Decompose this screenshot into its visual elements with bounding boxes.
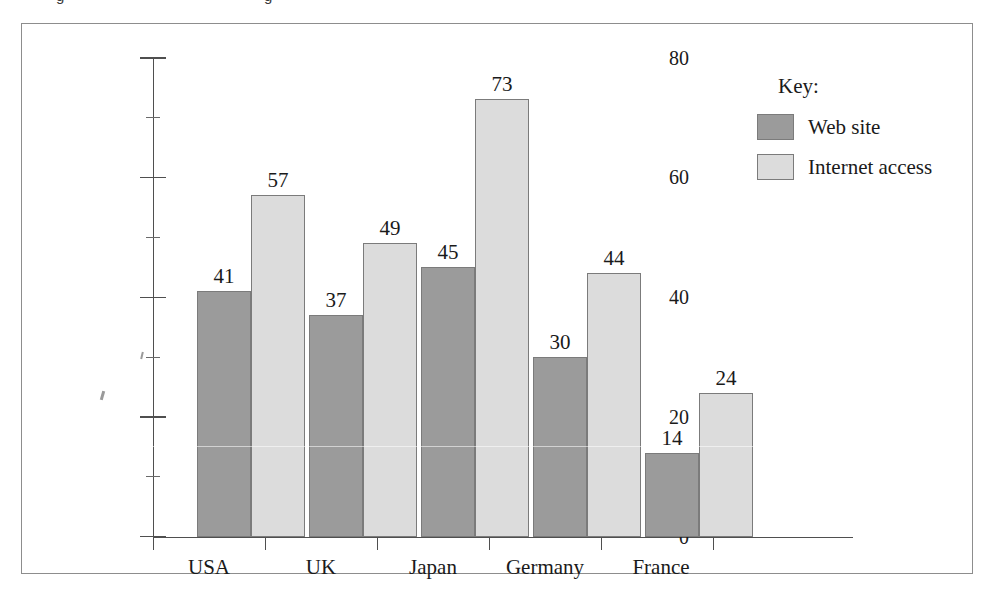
bar-value-uk-web-site: 37 [309,288,363,313]
bar-value-japan-internet-access: 73 [475,72,529,97]
legend-label-web-site: Web site [808,115,880,140]
legend-label-internet-access: Internet access [808,155,932,180]
legend-swatch-web-site [757,114,794,140]
x-category-label-usa: USA [169,555,249,580]
caption-fragment-2: g [264,0,272,4]
x-tick-1 [265,537,266,550]
y-tick-label-80: 80 [629,48,689,68]
bar-japan-web-site [421,267,475,537]
clipped-caption-strip: g g [0,0,989,14]
chart-legend: Key: Web site Internet access [757,74,967,194]
legend-item-internet-access: Internet access [757,154,967,180]
x-category-label-germany: Germany [497,555,593,580]
y-tick-label-60: 60 [629,167,689,187]
bar-value-japan-web-site: 45 [421,240,475,265]
scan-speck-2 [140,352,144,359]
bar-usa-internet-access [251,195,305,537]
y-tick-minor-30 [146,357,160,358]
y-tick-minor-70 [146,117,160,118]
bar-uk-web-site [309,315,363,537]
x-tick-3 [489,537,490,550]
bar-value-usa-web-site: 41 [197,264,251,289]
x-tick-5 [713,537,714,550]
y-tick-major-20 [140,416,166,417]
y-axis-line [153,58,154,538]
y-tick-major-60 [140,177,166,178]
x-axis-line [153,537,853,538]
legend-swatch-internet-access [757,154,794,180]
bar-usa-web-site [197,291,251,537]
bar-germany-internet-access [587,273,641,537]
bar-value-germany-internet-access: 44 [587,246,641,271]
plot-area: 0 20 40 60 80 41 57 37 49 45 73 30 44 14… [153,58,715,538]
x-category-label-uk: UK [281,555,361,580]
x-category-label-japan: Japan [393,555,473,580]
bar-value-uk-internet-access: 49 [363,216,417,241]
caption-fragment-1: g [56,0,64,4]
bar-france-web-site [645,453,699,537]
x-tick-2 [377,537,378,550]
bar-uk-internet-access [363,243,417,537]
y-tick-minor-50 [146,237,160,238]
y-tick-major-80 [140,57,166,58]
bar-value-france-internet-access: 24 [699,366,753,391]
y-tick-major-40 [140,297,166,298]
x-category-label-france: France [613,555,709,580]
bar-value-france-web-site: 14 [645,426,699,451]
x-tick-4 [601,537,602,550]
x-tick-0 [153,537,154,550]
figure-frame: 0 20 40 60 80 41 57 37 49 45 73 30 44 14… [21,23,973,574]
legend-title: Key: [778,74,967,99]
bar-france-internet-access [699,393,753,537]
bar-value-usa-internet-access: 57 [251,168,305,193]
bar-value-germany-web-site: 30 [533,330,587,355]
scan-speck-1 [100,391,105,400]
bar-germany-web-site [533,357,587,537]
bar-japan-internet-access [475,99,529,537]
legend-item-web-site: Web site [757,114,967,140]
y-tick-minor-10 [146,476,160,477]
